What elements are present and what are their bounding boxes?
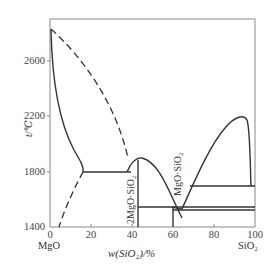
phase-lines [51, 29, 255, 227]
compound-label-forsterite: 2MgO·SiO₂ [125, 176, 136, 225]
left-component-label: MgO [38, 240, 60, 251]
x-tick-60: 60 [161, 229, 185, 240]
plot-frame [50, 19, 255, 227]
right-component-label: SiO₂ [238, 240, 258, 251]
x-tick-100: 100 [243, 229, 267, 240]
y-axis-title: t/℃ [23, 120, 34, 137]
x-axis-title: w(SiO₂)/% [108, 247, 155, 259]
y-tick-1800: 1800 [5, 166, 45, 177]
dashed-lines [51, 29, 128, 227]
y-tick-2600: 2600 [5, 55, 45, 66]
x-tick-80: 80 [202, 229, 226, 240]
compound-label-enstatite: MgO·SiO₂ [172, 153, 183, 197]
x-tick-0: 0 [38, 229, 62, 240]
x-tick-20: 20 [79, 229, 103, 240]
x-tick-40: 40 [120, 229, 144, 240]
